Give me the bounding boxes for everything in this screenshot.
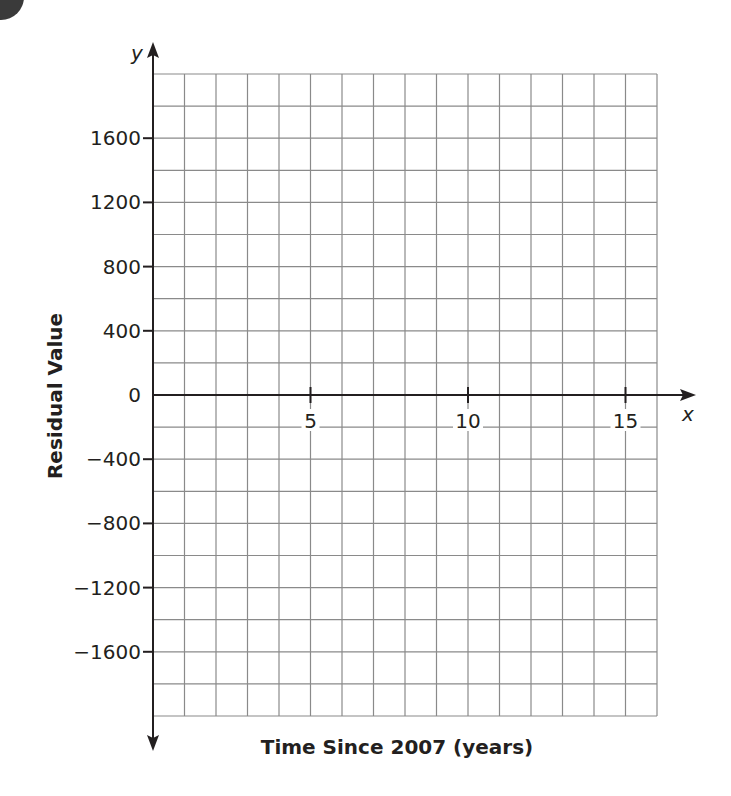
y-tick-label: −1200 xyxy=(73,576,141,600)
residual-plot: 51015160012008004000−400−800−1200−1600 x… xyxy=(0,0,731,796)
y-tick-label: −800 xyxy=(86,511,141,535)
y-tick-label: −1600 xyxy=(73,640,141,664)
y-tick-label: 400 xyxy=(103,319,141,343)
y-tick-label: 1200 xyxy=(90,190,141,214)
y-tick-label: 1600 xyxy=(90,126,141,150)
x-axis-label: Time Since 2007 (years) xyxy=(261,735,534,759)
x-tick-label: 15 xyxy=(613,409,638,433)
y-axis-label: Residual Value xyxy=(43,313,67,479)
y-tick-label: 800 xyxy=(103,255,141,279)
y-axis-symbol: y xyxy=(130,41,144,65)
axes xyxy=(147,42,696,751)
x-axis-symbol: x xyxy=(681,402,694,426)
x-tick-label: 5 xyxy=(304,409,317,433)
y-tick-label: −400 xyxy=(86,447,141,471)
x-tick-label: 10 xyxy=(455,409,480,433)
y-tick-label: 0 xyxy=(128,383,141,407)
